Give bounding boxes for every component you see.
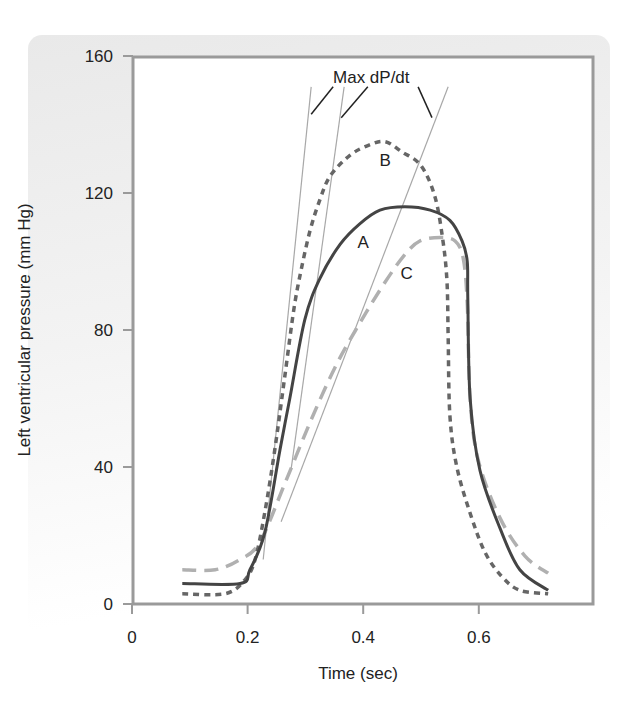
y-axis-label: Left ventricular pressure (mm Hg) bbox=[15, 203, 34, 456]
curve-label-a: A bbox=[358, 233, 370, 252]
y-tick-label: 80 bbox=[94, 321, 113, 340]
y-tick-label: 160 bbox=[85, 47, 113, 66]
pressure-time-chart: 04080120160 00.20.40.6 ABC Max dP/dt Tim… bbox=[0, 0, 624, 709]
y-tick-label: 40 bbox=[94, 458, 113, 477]
x-axis-label: Time (sec) bbox=[318, 664, 398, 683]
y-axis: 04080120160 bbox=[85, 47, 133, 614]
x-axis: 00.20.40.6 bbox=[127, 604, 490, 647]
x-tick-label: 0.2 bbox=[236, 628, 260, 647]
max-dpdt-annotation: Max dP/dt bbox=[333, 68, 410, 87]
x-tick-label: 0.6 bbox=[467, 628, 491, 647]
x-tick-label: 0.4 bbox=[351, 628, 375, 647]
curve-label-c: C bbox=[400, 264, 412, 283]
annotations: Max dP/dt bbox=[333, 68, 410, 87]
x-tick-label: 0 bbox=[127, 628, 136, 647]
curve-label-b: B bbox=[379, 151, 390, 170]
y-tick-label: 120 bbox=[85, 184, 113, 203]
y-tick-label: 0 bbox=[104, 595, 113, 614]
plot-area bbox=[133, 57, 593, 604]
